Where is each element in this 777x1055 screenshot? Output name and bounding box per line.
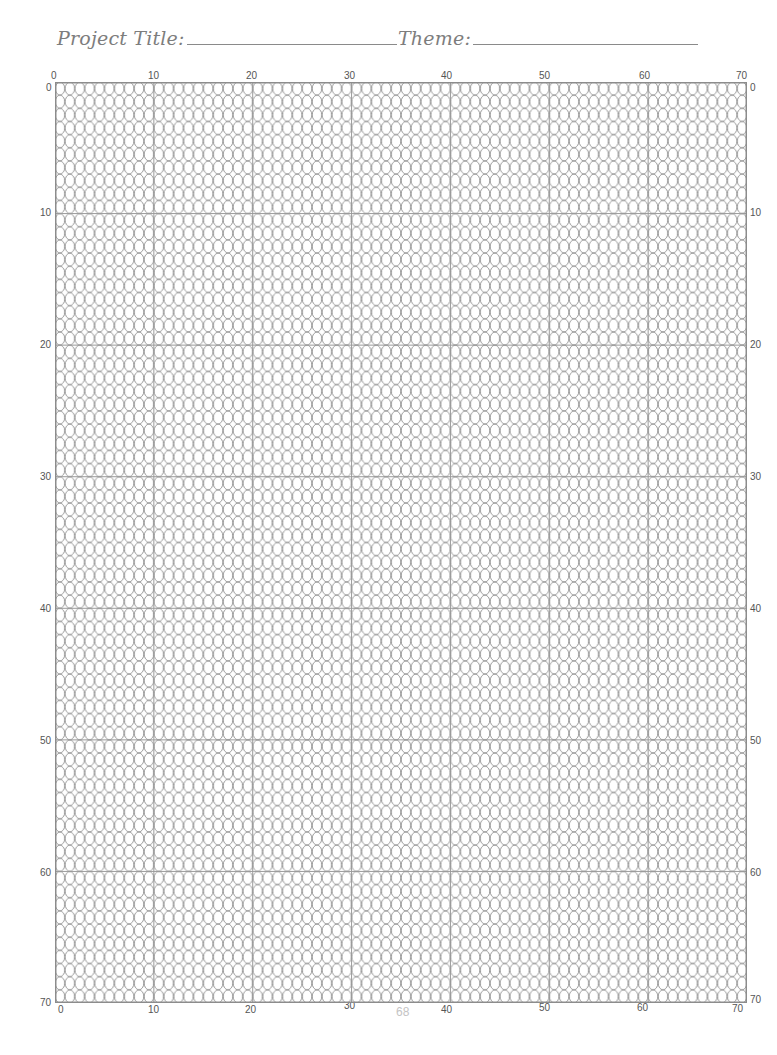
top-axis-label: 20 [246, 71, 257, 81]
project-title-label: Project Title: [57, 27, 185, 49]
left-axis-label: 20 [40, 340, 51, 350]
bottom-axis-label: 10 [148, 1005, 159, 1015]
right-axis-label: 10 [750, 208, 761, 218]
right-axis-label: 40 [750, 604, 761, 614]
oval-cells[interactable] [55, 82, 747, 1003]
right-axis-label: 0 [750, 83, 756, 93]
bottom-axis-label: 20 [245, 1005, 256, 1015]
page-header: Project Title: Theme: [0, 0, 777, 60]
top-axis-label: 40 [441, 71, 452, 81]
left-axis-label: 10 [40, 208, 51, 218]
theme-field[interactable]: Theme: [398, 27, 698, 49]
theme-blank-line[interactable] [473, 43, 698, 45]
top-axis-label: 50 [539, 71, 550, 81]
top-axis-label: 10 [148, 71, 159, 81]
bottom-axis-label: 70 [732, 1004, 743, 1014]
bottom-axis-label: 60 [637, 1003, 648, 1013]
right-axis-label: 20 [750, 340, 761, 350]
top-axis-label: 60 [639, 71, 650, 81]
left-axis-label: 60 [40, 868, 51, 878]
top-axis-label: 0 [51, 71, 57, 81]
left-axis-label: 40 [40, 604, 51, 614]
top-axis-label: 30 [344, 71, 355, 81]
project-title-field[interactable]: Project Title: [57, 27, 397, 49]
oval-grid-canvas[interactable] [55, 82, 747, 1003]
left-axis-label: 0 [46, 83, 52, 93]
theme-label: Theme: [398, 27, 471, 49]
top-axis-label: 70 [736, 71, 747, 81]
right-axis-label: 50 [750, 736, 761, 746]
bottom-axis-label: 0 [58, 1005, 64, 1015]
oval-grid[interactable] [55, 82, 747, 1003]
left-axis-label: 70 [40, 998, 51, 1008]
right-axis-label: 70 [750, 995, 761, 1005]
right-axis-label: 30 [750, 472, 761, 482]
project-title-blank-line[interactable] [187, 43, 397, 45]
bottom-axis-label: 50 [539, 1003, 550, 1013]
left-axis-label: 30 [40, 472, 51, 482]
page-number: 68 [396, 1005, 409, 1019]
left-axis-label: 50 [40, 736, 51, 746]
right-axis-label: 60 [750, 868, 761, 878]
bottom-axis-label: 40 [441, 1005, 452, 1015]
